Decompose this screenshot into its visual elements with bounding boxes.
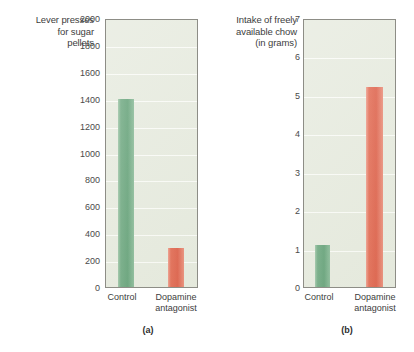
x-label-b-dopamine-antagonist: Dopamine antagonist bbox=[344, 292, 406, 314]
y-tick-a-400: 400 bbox=[70, 230, 100, 239]
bar-a-dopamine-antagonist bbox=[168, 248, 184, 287]
y-tick-a-1400: 1400 bbox=[70, 96, 100, 105]
y-tick-b-2: 2 bbox=[286, 207, 300, 216]
y-tick-b-1: 1 bbox=[286, 246, 300, 255]
bar-b-control bbox=[315, 245, 330, 287]
y-tick-b-5: 5 bbox=[286, 92, 300, 101]
gridline-a-1800 bbox=[106, 47, 197, 48]
plot-area-a bbox=[105, 19, 198, 288]
plot-area-b bbox=[303, 19, 396, 288]
panel-b: Intake of freely available chow (in gram… bbox=[207, 0, 414, 352]
gridline-a-1600 bbox=[106, 74, 197, 75]
y-tick-b-4: 4 bbox=[286, 130, 300, 139]
caption-b: (b) bbox=[327, 325, 367, 335]
x-label-a-control: Control bbox=[92, 292, 152, 303]
y-tick-a-600: 600 bbox=[70, 203, 100, 212]
gridline-b-6 bbox=[304, 58, 395, 59]
figure-two-bar-charts: Lever presses for sugar pellets 2000 180… bbox=[0, 0, 414, 352]
y-tick-a-1600: 1600 bbox=[70, 69, 100, 78]
y-tick-a-800: 800 bbox=[70, 176, 100, 185]
y-tick-a-1800: 1800 bbox=[70, 42, 100, 51]
y-tick-b-7: 7 bbox=[286, 15, 300, 24]
y-tick-b-6: 6 bbox=[286, 53, 300, 62]
y-tick-a-2000: 2000 bbox=[70, 15, 100, 24]
x-label-a-dopamine-antagonist: Dopamine antagonist bbox=[146, 292, 206, 314]
bar-a-control bbox=[118, 99, 134, 287]
x-label-b-control: Control bbox=[290, 292, 348, 303]
panel-a: Lever presses for sugar pellets 2000 180… bbox=[0, 0, 207, 352]
caption-a: (a) bbox=[128, 325, 168, 335]
y-tick-a-1200: 1200 bbox=[70, 123, 100, 132]
y-tick-a-200: 200 bbox=[70, 257, 100, 266]
y-axis-title-b: Intake of freely available chow (in gram… bbox=[212, 14, 297, 49]
bar-b-dopamine-antagonist bbox=[366, 87, 383, 287]
y-tick-a-1000: 1000 bbox=[70, 150, 100, 159]
y-tick-b-3: 3 bbox=[286, 169, 300, 178]
